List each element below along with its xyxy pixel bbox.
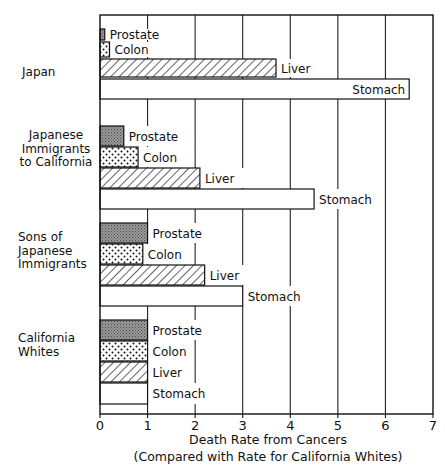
bar-label-liver: Liver xyxy=(281,62,311,76)
x-axis-subtitle: (Compared with Rate for California White… xyxy=(134,449,403,464)
bar-japan-colon xyxy=(100,42,110,57)
group-label: Immigrants xyxy=(18,257,87,271)
bar-label-liver: Liver xyxy=(210,269,240,283)
x-tick-label: 1 xyxy=(143,418,151,433)
x-tick-labels: 01234567 xyxy=(96,414,437,433)
bar-japan-liver xyxy=(100,59,276,77)
bar-japanese-immigrants-to-california-stomach xyxy=(100,189,314,209)
bar-california-whites-liver xyxy=(100,362,148,382)
bar-sons-of-japanese-immigrants-stomach xyxy=(100,286,243,306)
bar-japan-prostate xyxy=(100,29,105,40)
group-label: Japan xyxy=(21,65,55,79)
group-label: Whites xyxy=(18,345,59,359)
x-tick-label: 0 xyxy=(96,418,104,433)
bar-label-prostate: Prostate xyxy=(110,28,159,42)
x-tick-label: 3 xyxy=(239,418,247,433)
bar-label-stomach: Stomach xyxy=(319,193,372,207)
bar-sons-of-japanese-immigrants-prostate xyxy=(100,223,148,243)
bar-label-liver: Liver xyxy=(153,366,183,380)
group-label: Immigrants xyxy=(22,142,91,156)
group-labels: JapanJapaneseImmigrantsto CaliforniaSons… xyxy=(17,65,92,359)
bar-label-stomach: Stomach xyxy=(352,83,405,97)
group-label: Japanese xyxy=(28,128,84,142)
bar-label-colon: Colon xyxy=(148,248,182,262)
bar-california-whites-prostate xyxy=(100,320,148,340)
bar-california-whites-colon xyxy=(100,341,148,361)
x-axis-title: Death Rate from Cancers xyxy=(189,432,347,447)
group-label: to California xyxy=(20,155,93,169)
bar-japanese-immigrants-to-california-prostate xyxy=(100,126,124,146)
bar-label-colon: Colon xyxy=(143,151,177,165)
x-tick-label: 6 xyxy=(381,418,389,433)
bar-japanese-immigrants-to-california-colon xyxy=(100,147,138,167)
bar-label-prostate: Prostate xyxy=(153,227,202,241)
bar-label-prostate: Prostate xyxy=(129,130,178,144)
bar-label-prostate: Prostate xyxy=(153,324,202,338)
bar-label-colon: Colon xyxy=(115,43,149,57)
bar-california-whites-stomach xyxy=(100,383,148,404)
group-label: Sons of xyxy=(18,230,63,244)
bar-label-stomach: Stomach xyxy=(248,290,301,304)
bar-japanese-immigrants-to-california-liver xyxy=(100,168,200,188)
group-label: California xyxy=(18,331,75,345)
x-tick-label: 4 xyxy=(286,418,294,433)
cancer-death-rate-chart: ProstateColonLiverStomachProstateColonLi… xyxy=(0,0,445,476)
bar-label-liver: Liver xyxy=(205,172,235,186)
x-tick-label: 7 xyxy=(429,418,437,433)
group-label: Japanese xyxy=(17,244,73,258)
x-tick-label: 5 xyxy=(334,418,342,433)
bar-sons-of-japanese-immigrants-liver xyxy=(100,265,205,285)
bar-label-stomach: Stomach xyxy=(153,387,206,401)
x-tick-label: 2 xyxy=(191,418,199,433)
bar-label-colon: Colon xyxy=(153,345,187,359)
bar-sons-of-japanese-immigrants-colon xyxy=(100,244,143,264)
